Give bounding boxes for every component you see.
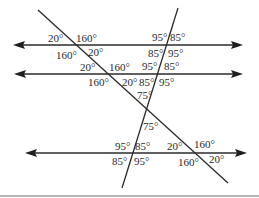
angle-label: 20° bbox=[88, 46, 103, 58]
angle-label: 85° bbox=[139, 76, 154, 88]
angle-label: 20° bbox=[80, 61, 95, 73]
angle-label: 20° bbox=[167, 140, 182, 152]
angle-label: 85° bbox=[135, 140, 150, 152]
angle-diagram: 20° 160° 160° 20° 95° 85° 85° 95° 20° 16… bbox=[0, 0, 259, 198]
angle-label: 95° bbox=[159, 76, 174, 88]
angle-label: 160° bbox=[56, 49, 77, 61]
angle-label: 20° bbox=[122, 76, 137, 88]
angle-label: 20° bbox=[209, 153, 224, 165]
angle-label: 160° bbox=[194, 138, 215, 150]
angle-label: 160° bbox=[109, 61, 130, 73]
angle-label: 160° bbox=[178, 156, 199, 168]
angle-label: 75° bbox=[137, 89, 152, 101]
transversal-a bbox=[38, 10, 228, 183]
angle-label: 95° bbox=[152, 31, 167, 43]
angle-label: 85° bbox=[164, 60, 179, 72]
angle-label: 85° bbox=[148, 47, 163, 59]
angle-label: 20° bbox=[48, 32, 63, 44]
angle-label: 95° bbox=[168, 47, 183, 59]
angle-label: 75° bbox=[143, 120, 158, 132]
angle-label: 160° bbox=[88, 76, 109, 88]
angle-label: 95° bbox=[142, 60, 157, 72]
angle-label: 85° bbox=[170, 31, 185, 43]
angle-label: 160° bbox=[76, 32, 97, 44]
angle-label: 85° bbox=[112, 155, 127, 167]
angle-label: 95° bbox=[115, 140, 130, 152]
angle-label: 95° bbox=[134, 155, 149, 167]
